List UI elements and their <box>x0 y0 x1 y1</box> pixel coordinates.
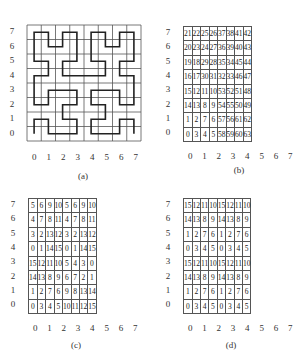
grid-cell: 6 <box>209 285 218 299</box>
grid-cell: 1 <box>184 113 193 127</box>
y-axis-label: 1 <box>7 113 17 123</box>
y-axis-label: 2 <box>8 271 18 281</box>
y-axis-label: 3 <box>8 256 18 266</box>
x-axis-label: 7 <box>128 323 142 333</box>
grid-cell: 15 <box>184 256 193 270</box>
grid-cell: 3 <box>29 227 38 241</box>
grid-cell: 14 <box>88 285 97 299</box>
grid-cell: 11 <box>201 199 209 213</box>
grid-cell: 7 <box>71 270 79 284</box>
y-axis-label: 4 <box>163 70 173 80</box>
grid-cell: 47 <box>243 70 252 84</box>
grid-cell: 11 <box>234 256 242 270</box>
grid-cell: 3 <box>79 256 88 270</box>
grid-cell: 10 <box>88 199 97 213</box>
grid-cell: 34 <box>226 55 235 69</box>
grid-cell: 3 <box>192 127 201 141</box>
x-axis-label: 5 <box>255 151 269 161</box>
grid-cell: 4 <box>29 213 38 227</box>
table-row: 127657566162 <box>184 113 252 127</box>
table-row: 1918292835344544 <box>184 55 252 69</box>
grid-cell: 1 <box>184 227 193 241</box>
y-axis-label: 0 <box>7 128 17 138</box>
grid-cell: 11 <box>88 213 97 227</box>
grid-cell: 8 <box>46 270 55 284</box>
x-axis-label: 3 <box>226 323 240 333</box>
grid-cell: 11 <box>201 84 210 98</box>
grid-cell: 11 <box>54 213 63 227</box>
grid-cell: 12 <box>226 256 235 270</box>
grid-cell: 54 <box>218 98 227 112</box>
y-axis-label: 4 <box>7 70 17 80</box>
grid-cell: 11 <box>71 299 79 313</box>
y-axis-label: 3 <box>7 84 17 94</box>
grid-cell: 21 <box>184 27 193 41</box>
grid-cell: 1 <box>217 227 226 241</box>
x-axis-label: 3 <box>226 151 240 161</box>
caption-a: (a) <box>63 171 103 181</box>
y-axis-label: 0 <box>163 299 173 309</box>
grid-cell: 24 <box>201 41 210 55</box>
grid-cell: 8 <box>201 98 210 112</box>
grid-cell: 23 <box>192 41 201 55</box>
grid-cell: 12 <box>79 299 88 313</box>
grid-cell: 2 <box>71 227 79 241</box>
grid-cell: 52 <box>226 84 235 98</box>
caption-d: (d) <box>211 340 251 350</box>
grid-cell: 14 <box>46 242 55 256</box>
x-axis-label: 6 <box>269 151 283 161</box>
grid-cell: 35 <box>218 55 227 69</box>
grid-cell: 39 <box>226 41 235 55</box>
grid-cell: 53 <box>218 84 227 98</box>
grid-cell: 14 <box>29 270 38 284</box>
grid-cell: 10 <box>242 256 251 270</box>
grid-cell: 2 <box>226 227 235 241</box>
grid-cell: 14 <box>217 213 226 227</box>
x-axis-label: 1 <box>197 151 211 161</box>
grid-cell: 7 <box>201 285 209 299</box>
grid-cell: 63 <box>243 127 252 141</box>
grid-cell: 5 <box>29 199 38 213</box>
x-axis-label: 4 <box>240 151 254 161</box>
grid-cell: 61 <box>235 113 244 127</box>
grid-cell: 12 <box>192 199 201 213</box>
grid-cell: 22 <box>192 27 201 41</box>
grid-cell: 5 <box>242 299 251 313</box>
grid-cell: 6 <box>242 285 251 299</box>
grid-cell: 12 <box>37 256 46 270</box>
grid-cell: 15 <box>217 199 226 213</box>
grid-cell: 0 <box>29 242 38 256</box>
x-axis-label: 6 <box>114 323 128 333</box>
table-row: 1413896721 <box>29 270 97 284</box>
grid-cell: 17 <box>192 70 201 84</box>
grid-cell: 4 <box>201 242 209 256</box>
table-row: 011415011415 <box>29 242 97 256</box>
grid-cell: 0 <box>29 299 38 313</box>
grid-cell: 9 <box>63 285 72 299</box>
grid-cell: 32 <box>218 70 227 84</box>
grid-cell: 7 <box>234 285 242 299</box>
grid-cell: 33 <box>226 70 235 84</box>
grid-cell: 26 <box>209 27 218 41</box>
y-axis-label: 7 <box>7 26 17 36</box>
x-axis-label: 2 <box>212 323 226 333</box>
x-axis-label: 1 <box>42 152 56 162</box>
grid-cell: 9 <box>54 270 63 284</box>
grid-cell: 6 <box>37 199 46 213</box>
y-axis-label: 6 <box>7 41 17 51</box>
grid-cell: 7 <box>46 285 55 299</box>
y-axis-label: 3 <box>163 84 173 94</box>
grid-cell: 4 <box>46 299 55 313</box>
table-row: 141389141389 <box>184 270 251 284</box>
y-axis-label: 7 <box>163 199 173 209</box>
grid-cell: 11 <box>46 256 55 270</box>
grid-cell: 15 <box>88 299 97 313</box>
grid-cell: 10 <box>63 299 72 313</box>
grid-cell: 0 <box>217 242 226 256</box>
grid-cell: 10 <box>209 256 218 270</box>
grid-cell: 10 <box>54 256 63 270</box>
grid-cell: 13 <box>226 213 235 227</box>
grid-cell: 13 <box>192 213 201 227</box>
grid-cell: 8 <box>46 213 55 227</box>
grid-cell: 6 <box>209 227 218 241</box>
